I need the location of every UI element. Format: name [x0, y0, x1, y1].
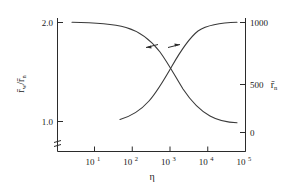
left-axis-title-den-sub: n [20, 75, 27, 79]
right-axis-title-sub: n [274, 84, 278, 91]
x-tick-label-1e3-base: 10 [161, 157, 171, 167]
left-axis-ticks [58, 23, 64, 122]
left-axis-title: r̄w/r̄n [15, 75, 27, 93]
x-tick-label-1e3-exp: 3 [173, 155, 176, 162]
axes-group [58, 18, 246, 152]
x-tick-label-1e4-base: 10 [199, 157, 209, 167]
x-tick-label-1e1: 10 1 [86, 155, 101, 168]
x-tick-label-1e3: 10 3 [161, 155, 176, 168]
right-axis-title: r̄n [271, 79, 278, 91]
left-tick-label-1: 1.0 [42, 117, 54, 127]
x-tick-label-1e5-exp: 5 [248, 155, 251, 162]
series-line-rn [120, 22, 237, 119]
left-axis-title-text: r̄w/r̄n [15, 75, 27, 93]
right-tick-label-500: 500 [250, 80, 264, 90]
x-axis-title: η [149, 171, 154, 182]
x-tick-label-1e2: 10 2 [123, 155, 138, 168]
right-axis-title-text: r̄n [271, 79, 278, 91]
right-tick-label-1000: 1000 [250, 18, 269, 28]
x-axis-ticks [95, 147, 246, 152]
series-line-rw-over-rn [72, 22, 237, 123]
right-axis-ticks [240, 23, 246, 133]
x-tick-label-1e4: 10 4 [199, 155, 215, 168]
x-tick-label-1e2-exp: 2 [135, 155, 138, 162]
right-tick-label-0: 0 [250, 128, 255, 138]
figure-container: 2.0 1.0 1000 500 0 10 1 10 2 10 3 [0, 0, 295, 189]
chart-plot: 2.0 1.0 1000 500 0 10 1 10 2 10 3 [0, 0, 295, 189]
x-tick-label-1e4-exp: 4 [210, 155, 214, 162]
x-tick-label-1e2-base: 10 [123, 157, 133, 167]
x-tick-label-1e5: 10 5 [237, 155, 252, 168]
x-tick-label-1e5-base: 10 [237, 157, 247, 167]
left-tick-label-2: 2.0 [42, 18, 54, 28]
x-tick-label-1e1-base: 10 [86, 157, 96, 167]
arrow-right-annotation [168, 44, 180, 48]
x-tick-label-1e1-exp: 1 [97, 155, 100, 162]
